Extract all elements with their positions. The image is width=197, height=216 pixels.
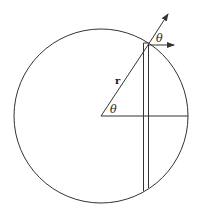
surface-angle-label: θ [156, 32, 163, 45]
radius-label: r [115, 75, 121, 86]
sphere-slice-diagram: r θ θ [0, 0, 197, 216]
radius-line [101, 45, 148, 116]
center-angle-label: θ [110, 103, 117, 116]
